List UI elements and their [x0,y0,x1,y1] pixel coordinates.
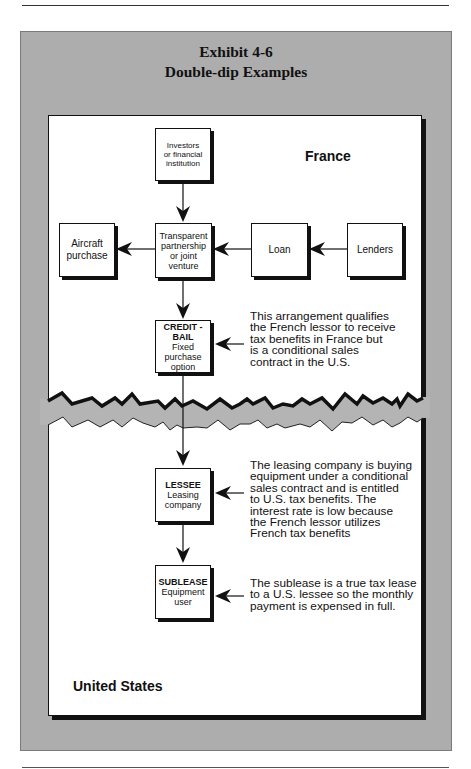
node-credit-bail-title: CREDIT - BAIL [164,322,203,342]
region-label-france: France [305,148,351,164]
note-line: contract in the U.S. [250,357,425,368]
node-lessee-label: Leasing company [165,490,202,510]
node-lessee-title: LESSEE [165,480,201,490]
node-aircraft-label: Aircraft purchase [66,238,107,262]
node-sublease: SUBLEASE Equipment user [155,565,211,619]
node-aircraft-purchase: Aircraft purchase [59,223,115,277]
node-credit-bail: CREDIT - BAIL Fixed purchase option [155,320,211,373]
node-credit-bail-label: Fixed purchase option [164,342,201,372]
node-lessee: LESSEE Leasing company [155,468,211,522]
node-transparent-label: Transparent partnership or joint venture [159,231,207,271]
node-sublease-title: SUBLEASE [158,577,207,587]
border-break [40,392,430,431]
note-sublease: The sublease is a true tax lease to a U.… [250,578,425,612]
node-investors-label: Investors or financial institution [164,141,203,168]
connector-layer [0,0,471,769]
node-loan-label: Loan [268,244,290,256]
node-lenders-label: Lenders [357,244,393,256]
region-label-united-states: United States [73,678,162,694]
node-investors: Investors or financial institution [155,128,211,181]
note-line: payment is expensed in full. [250,601,425,612]
node-transparent-partnership: Transparent partnership or joint venture [155,223,212,278]
note-line: French tax benefits [250,528,425,539]
note-credit-bail: This arrangement qualifies the French le… [250,311,425,368]
node-sublease-label: Equipment user [161,587,204,607]
node-lenders: Lenders [347,223,403,277]
note-lessee: The leasing company is buying equipment … [250,460,425,540]
node-loan: Loan [251,223,308,277]
